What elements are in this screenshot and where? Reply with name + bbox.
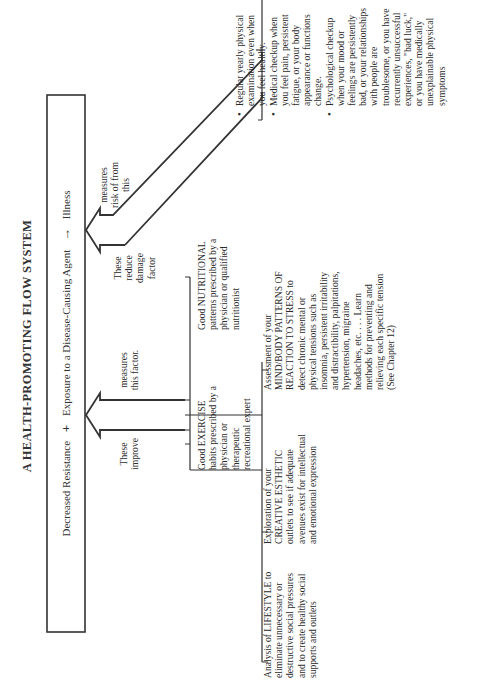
nutrition-item: Good NUTRITIONAL patterns prescribed by …: [196, 238, 241, 330]
arrow-right-icon: →: [58, 228, 73, 241]
creative-item: Exploration of your CREATIVE ESTHETIC ou…: [262, 426, 318, 544]
improve-label-left: These improve: [118, 434, 140, 474]
equation-result: Illness: [60, 191, 72, 220]
checkup-item: Psychological checkup when your mood or …: [324, 6, 447, 106]
improve-label-right: measures this factor.: [118, 346, 140, 394]
checkup-item: Medical checkup when you feel pain, pers…: [268, 6, 324, 106]
improve-bracket: [185, 277, 190, 470]
reduce-label-left: These reduce damage factor: [112, 247, 157, 289]
diagram-stage: A HEALTH-PROMOTING FLOW SYSTEM Decreased…: [0, 0, 497, 692]
equation-term1: Decreased Resistance: [60, 441, 72, 537]
equation: Decreased Resistance + Exposure to a Dis…: [58, 95, 74, 632]
checkup-list: Regular yearly physical examination even…: [234, 6, 447, 118]
lifestyle-item: Analysis of LIFESTYLE to eliminate unnec…: [262, 558, 318, 678]
improve-arrow: [86, 393, 185, 437]
checkup-item: Regular yearly physical examination even…: [234, 6, 268, 106]
mindbody-item: Assessment of your MIND/BODY PATTERNS OF…: [262, 270, 396, 390]
equation-term2: Exposure to a Disease-Causing Agent: [60, 250, 72, 416]
reduce-label-right: measures risk of from this: [98, 161, 132, 209]
equation-plus: +: [58, 425, 73, 432]
diagram-title: A HEALTH-PROMOTING FLOW SYSTEM: [20, 150, 35, 542]
exercise-item: Good EXERCISE habits prescribed by a phy…: [196, 382, 252, 470]
